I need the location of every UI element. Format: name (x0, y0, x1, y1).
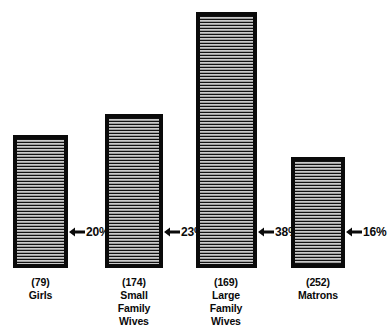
left-arrow-icon (68, 226, 86, 238)
category-name-large-family-wives-line-3: Wives (191, 315, 261, 328)
left-arrow-icon (257, 226, 275, 238)
category-name-small-family-wives-line-3: Wives (99, 315, 169, 328)
bar-girls (13, 135, 68, 268)
category-name-girls-line-1: Girls (6, 289, 75, 302)
value-callout-matrons: 16% (345, 224, 386, 240)
sample-size-large-family-wives: (169) (191, 276, 261, 289)
category-name-large-family-wives-line-1: Large (191, 289, 261, 302)
bar-chart-figure: 20% (79) Girls 23% (174) Small Family Wi… (0, 0, 391, 334)
sample-size-girls: (79) (6, 276, 75, 289)
category-name-large-family-wives-line-2: Family (191, 302, 261, 315)
bar-matrons (291, 157, 345, 268)
value-label-matrons: 16% (363, 226, 386, 238)
sample-size-matrons: (252) (283, 276, 353, 289)
value-callout-girls: 20% (68, 224, 109, 240)
category-name-small-family-wives-line-2: Family (99, 302, 169, 315)
bar-large-family-wives (196, 12, 257, 268)
category-label-matrons: (252) Matrons (283, 276, 353, 302)
left-arrow-icon (163, 226, 181, 238)
bar-small-family-wives (105, 114, 163, 268)
left-arrow-icon (345, 226, 363, 238)
category-name-small-family-wives-line-1: Small (99, 289, 169, 302)
category-name-matrons-line-1: Matrons (283, 289, 353, 302)
category-label-large-family-wives: (169) Large Family Wives (191, 276, 261, 328)
category-label-girls: (79) Girls (6, 276, 75, 302)
sample-size-small-family-wives: (174) (99, 276, 169, 289)
category-label-small-family-wives: (174) Small Family Wives (99, 276, 169, 328)
